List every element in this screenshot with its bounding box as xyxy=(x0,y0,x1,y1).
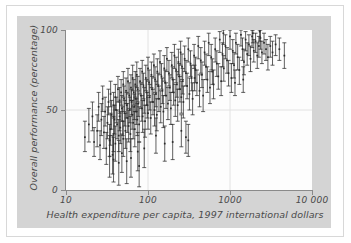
error-bar-point xyxy=(170,52,174,78)
error-bar-point xyxy=(208,72,212,104)
x-axis-title: Health expenditure per capita, 1997 inte… xyxy=(40,209,330,220)
error-bar-point xyxy=(274,35,278,56)
error-bar-point xyxy=(258,30,262,41)
error-bar-point xyxy=(268,36,272,57)
error-bar-point xyxy=(198,75,202,107)
x-tick-label-10: 10 xyxy=(48,195,84,205)
error-bar-point xyxy=(277,38,281,60)
error-bar-point xyxy=(271,41,275,65)
error-bar-point xyxy=(155,59,159,85)
data-points xyxy=(83,30,286,187)
error-bar-point xyxy=(87,108,91,142)
error-bar-point xyxy=(165,48,169,72)
error-bar-point xyxy=(83,121,87,151)
error-bar-point xyxy=(142,129,146,167)
error-bar-point xyxy=(129,139,133,177)
y-tick-100 xyxy=(61,30,66,31)
figure-root: 100 50 0 10 100 1000 10 000 Health expen… xyxy=(0,0,351,243)
error-bar-point xyxy=(282,43,286,69)
error-bar-point xyxy=(193,65,197,91)
error-bar-point xyxy=(162,56,166,82)
error-bar-point xyxy=(163,126,167,161)
error-bar-point xyxy=(218,32,222,53)
error-bar-point xyxy=(179,115,183,147)
error-bar-point xyxy=(186,38,190,62)
error-bar-point xyxy=(117,140,121,185)
x-tick-label-10000: 10 000 xyxy=(290,195,334,205)
y-tick-50 xyxy=(61,110,66,111)
error-bar-point xyxy=(109,81,113,107)
x-axis-line xyxy=(65,190,313,191)
y-axis-title: Overall performance (percentage) xyxy=(28,31,39,191)
plot-area xyxy=(66,30,312,190)
x-tick-label-1000: 1000 xyxy=(212,195,248,205)
error-bar-point xyxy=(221,30,225,44)
error-bar-point xyxy=(118,102,122,131)
error-bar-point xyxy=(184,121,188,153)
error-bar-point xyxy=(167,60,171,86)
error-bar-point xyxy=(90,102,94,131)
error-bar-point xyxy=(233,70,237,96)
error-bar-point xyxy=(92,128,96,157)
error-bar-point xyxy=(171,124,175,159)
error-bar-point xyxy=(149,62,153,88)
scatter-error-bar-layer xyxy=(66,30,312,190)
error-bar-point xyxy=(121,72,125,98)
error-bar-point xyxy=(262,33,266,54)
error-bar-point xyxy=(186,124,190,156)
error-bar-point xyxy=(111,136,115,174)
error-bar-point xyxy=(241,67,245,93)
x-tick-label-100: 100 xyxy=(130,195,166,205)
